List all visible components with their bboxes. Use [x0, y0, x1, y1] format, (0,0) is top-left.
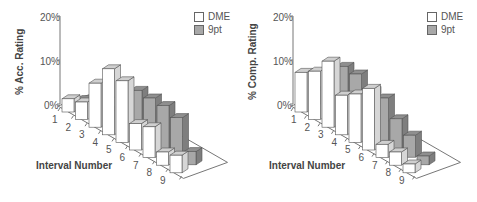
x-category-1: 1: [52, 114, 58, 125]
x-category-3: 3: [79, 129, 85, 140]
legend-item-9pt: 9pt: [427, 23, 463, 36]
x-category-9: 9: [160, 175, 166, 186]
x-category-5: 5: [106, 144, 112, 155]
x-axis-label: Interval Number: [36, 160, 112, 171]
x-category-7: 7: [372, 160, 378, 171]
bar: [403, 160, 421, 173]
x-category-4: 4: [93, 137, 99, 148]
y-tick-0: 0%: [44, 100, 58, 111]
x-category-6: 6: [359, 152, 365, 163]
legend: DME 9pt: [427, 10, 463, 36]
x-category-6: 6: [120, 152, 126, 163]
y-axis-label: % Comp. Rating: [247, 23, 258, 100]
x-category-7: 7: [133, 160, 139, 171]
legend-swatch-dme: [427, 12, 437, 22]
legend-swatch-9pt: [427, 25, 437, 35]
legend-item-dme: DME: [427, 10, 463, 23]
chart-panel-comp: % Comp. Rating 20% 10% 0% Interval Numbe…: [239, 0, 477, 202]
y-tick-20: 20%: [40, 12, 60, 23]
x-category-1: 1: [291, 114, 297, 125]
x-category-8: 8: [386, 167, 392, 178]
x-category-9: 9: [399, 175, 405, 186]
x-category-5: 5: [345, 144, 351, 155]
legend: DME 9pt: [194, 10, 230, 36]
legend-item-dme: DME: [194, 10, 230, 23]
x-category-8: 8: [147, 167, 153, 178]
x-category-3: 3: [318, 129, 324, 140]
x-category-4: 4: [332, 137, 338, 148]
y-tick-10: 10%: [273, 56, 293, 67]
bar: [170, 151, 188, 173]
legend-swatch-dme: [194, 12, 204, 22]
x-axis-label: Interval Number: [269, 160, 345, 171]
bar: [363, 84, 381, 150]
chart-panel-acc: % Acc. Rating 20% 10% 0% Interval Number…: [0, 0, 238, 202]
x-category-2: 2: [66, 122, 72, 133]
y-tick-20: 20%: [273, 12, 293, 23]
legend-swatch-9pt: [194, 25, 204, 35]
y-tick-10: 10%: [40, 56, 60, 67]
y-axis-label: % Acc. Rating: [14, 29, 25, 95]
legend-item-9pt: 9pt: [194, 23, 230, 36]
x-category-2: 2: [305, 122, 311, 133]
y-tick-0: 0%: [277, 100, 291, 111]
